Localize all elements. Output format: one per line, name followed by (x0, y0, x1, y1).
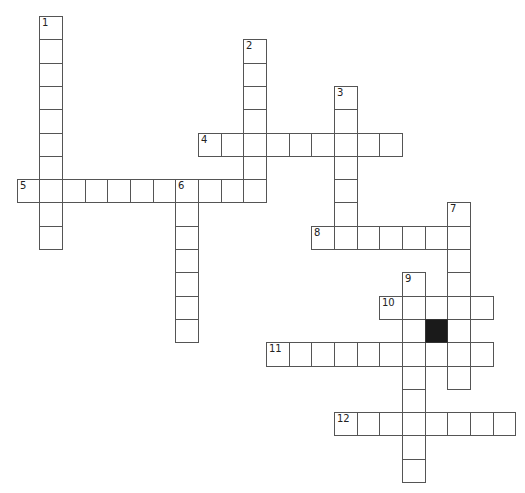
crossword-cell[interactable] (470, 296, 494, 320)
crossword-cell[interactable] (311, 342, 335, 367)
crossword-cell[interactable] (243, 179, 267, 203)
clue-number: 4 (201, 135, 207, 145)
crossword-cell[interactable] (334, 179, 358, 203)
crossword-cell[interactable] (379, 342, 403, 367)
crossword-cell[interactable] (62, 179, 86, 203)
crossword-cell[interactable] (357, 342, 380, 367)
black-cell (425, 319, 448, 343)
crossword-cell[interactable] (175, 249, 199, 273)
crossword-cell[interactable] (402, 226, 426, 250)
crossword-cell[interactable] (334, 226, 358, 250)
crossword-cell[interactable] (39, 63, 63, 87)
crossword-cell[interactable] (425, 296, 448, 320)
crossword-cell[interactable] (39, 156, 63, 180)
clue-number: 10 (382, 298, 395, 308)
crossword-cell[interactable] (175, 202, 199, 227)
crossword-cell[interactable] (39, 109, 63, 134)
crossword-cell[interactable]: 10 (379, 296, 403, 320)
crossword-cell[interactable]: 3 (334, 86, 358, 110)
crossword-cell[interactable] (39, 202, 63, 227)
crossword-cell[interactable] (447, 249, 471, 273)
clue-number: 7 (450, 204, 456, 214)
clue-number: 3 (337, 88, 343, 98)
crossword-cell[interactable] (39, 179, 63, 203)
crossword-cell[interactable] (357, 412, 380, 436)
crossword-cell[interactable] (175, 319, 199, 343)
crossword-cell[interactable] (357, 226, 380, 250)
crossword-cell[interactable] (243, 63, 267, 87)
crossword-cell[interactable] (402, 342, 426, 367)
crossword-cell[interactable] (243, 86, 267, 110)
clue-number: 5 (20, 181, 26, 191)
crossword-cell[interactable] (175, 226, 199, 250)
crossword-cell[interactable] (153, 179, 176, 203)
crossword-cell[interactable] (198, 179, 222, 203)
crossword-cell[interactable] (379, 133, 403, 157)
crossword-cell[interactable] (402, 459, 426, 483)
crossword-cell[interactable] (402, 296, 426, 320)
crossword-cell[interactable] (447, 296, 471, 320)
crossword-cell[interactable] (39, 226, 63, 250)
crossword-cell[interactable] (425, 226, 448, 250)
clue-number: 9 (405, 274, 411, 284)
crossword-cell[interactable]: 7 (447, 202, 471, 227)
crossword-cell[interactable] (311, 133, 335, 157)
crossword-cell[interactable] (493, 412, 516, 436)
crossword-cell[interactable] (402, 366, 426, 390)
crossword-cell[interactable] (447, 272, 471, 297)
crossword-cell[interactable] (334, 133, 358, 157)
crossword-cell[interactable]: 2 (243, 39, 267, 64)
crossword-cell[interactable] (243, 156, 267, 180)
clue-number: 6 (178, 181, 184, 191)
crossword-cell[interactable] (85, 179, 108, 203)
clue-number: 1 (42, 18, 48, 28)
crossword-grid: 123456789101112 (0, 0, 525, 493)
clue-number: 11 (269, 344, 282, 354)
crossword-cell[interactable] (266, 133, 290, 157)
crossword-cell[interactable] (334, 342, 358, 367)
crossword-cell[interactable] (175, 296, 199, 320)
crossword-cell[interactable]: 5 (17, 179, 40, 203)
crossword-cell[interactable]: 9 (402, 272, 426, 297)
crossword-cell[interactable] (289, 133, 312, 157)
crossword-cell[interactable] (425, 412, 448, 436)
crossword-cell[interactable] (243, 109, 267, 134)
crossword-cell[interactable] (221, 133, 244, 157)
crossword-cell[interactable] (175, 272, 199, 297)
crossword-cell[interactable] (470, 342, 494, 367)
crossword-cell[interactable] (447, 412, 471, 436)
crossword-cell[interactable] (334, 109, 358, 134)
crossword-cell[interactable] (470, 412, 494, 436)
crossword-cell[interactable] (243, 133, 267, 157)
crossword-cell[interactable] (39, 133, 63, 157)
crossword-cell[interactable] (447, 226, 471, 250)
crossword-cell[interactable] (107, 179, 131, 203)
crossword-cell[interactable] (447, 342, 471, 367)
crossword-cell[interactable] (447, 319, 471, 343)
crossword-cell[interactable]: 12 (334, 412, 358, 436)
crossword-cell[interactable] (402, 412, 426, 436)
crossword-cell[interactable]: 8 (311, 226, 335, 250)
crossword-cell[interactable] (221, 179, 244, 203)
crossword-cell[interactable] (379, 226, 403, 250)
crossword-cell[interactable] (39, 86, 63, 110)
crossword-cell[interactable] (334, 202, 358, 227)
crossword-cell[interactable] (402, 435, 426, 460)
clue-number: 8 (314, 228, 320, 238)
crossword-cell[interactable] (289, 342, 312, 367)
crossword-cell[interactable] (39, 39, 63, 64)
crossword-cell[interactable] (357, 133, 380, 157)
crossword-cell[interactable] (425, 342, 448, 367)
crossword-cell[interactable]: 4 (198, 133, 222, 157)
crossword-cell[interactable] (447, 366, 471, 390)
crossword-cell[interactable]: 11 (266, 342, 290, 367)
crossword-cell[interactable] (402, 319, 426, 343)
crossword-cell[interactable] (402, 389, 426, 413)
crossword-cell[interactable] (379, 412, 403, 436)
clue-number: 12 (337, 414, 350, 424)
crossword-cell[interactable] (130, 179, 154, 203)
crossword-cell[interactable]: 6 (175, 179, 199, 203)
clue-number: 2 (246, 41, 252, 51)
crossword-cell[interactable] (334, 156, 358, 180)
crossword-cell[interactable]: 1 (39, 16, 63, 40)
